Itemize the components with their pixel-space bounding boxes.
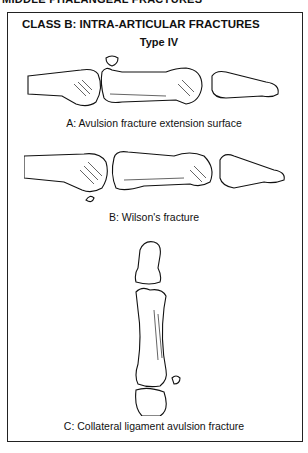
figure-subtitle: Type IV (0, 36, 308, 48)
panel-b-illustration (24, 148, 304, 208)
running-header: MIDDLE PHALANGEAL FRACTURES (2, 0, 202, 5)
panel-c-illustration (120, 240, 200, 416)
panel-c-caption: C: Collateral ligament avulsion fracture (0, 420, 308, 432)
panel-b-caption: B: Wilson's fracture (0, 211, 308, 223)
panel-a-caption: A: Avulsion fracture extension surface (0, 117, 308, 129)
panel-a-illustration (26, 54, 306, 114)
figure-title: CLASS B: INTRA-ARTICULAR FRACTURES (22, 18, 260, 30)
